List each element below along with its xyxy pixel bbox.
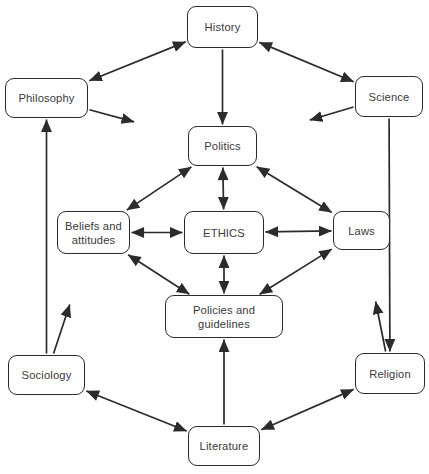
node-literature[interactable]: Literature: [188, 426, 260, 466]
node-religion-label: Religion: [369, 367, 411, 381]
node-philosophy-label: Philosophy: [18, 91, 74, 105]
edge-politics-laws: [257, 167, 332, 213]
edge-politics-ethics: [223, 168, 224, 210]
edge-religion-laws: [376, 302, 386, 352]
edge-sociology-beliefs: [54, 305, 70, 354]
node-laws[interactable]: Laws: [333, 211, 390, 250]
edge-beliefs-policies: [128, 255, 189, 294]
concept-map-diagram: History Philosophy Science Politics Beli…: [0, 0, 429, 474]
edge-history-philosophy: [89, 42, 185, 81]
node-religion[interactable]: Religion: [355, 353, 425, 394]
edge-history-science: [259, 42, 353, 81]
node-history-label: History: [205, 20, 241, 34]
edge-beliefs-politics: [127, 167, 192, 210]
node-beliefs-and-attitudes-label: Beliefs and attitudes: [65, 219, 122, 247]
node-sociology[interactable]: Sociology: [8, 355, 85, 395]
edge-science-center: [310, 107, 354, 120]
node-ethics[interactable]: ETHICS: [184, 211, 264, 254]
edge-policies-laws: [260, 249, 332, 294]
node-beliefs-and-attitudes[interactable]: Beliefs and attitudes: [57, 211, 130, 254]
node-science[interactable]: Science: [355, 76, 423, 117]
node-policies-and-guidelines-label: Policies and guidelines: [193, 303, 255, 331]
node-politics-label: Politics: [204, 139, 241, 153]
edge-literature-religion: [261, 389, 353, 429]
node-policies-and-guidelines[interactable]: Policies and guidelines: [165, 295, 283, 338]
node-politics[interactable]: Politics: [188, 126, 257, 166]
node-ethics-label: ETHICS: [203, 226, 245, 240]
node-literature-label: Literature: [200, 439, 249, 453]
node-science-label: Science: [369, 90, 410, 104]
node-laws-label: Laws: [348, 224, 375, 238]
node-sociology-label: Sociology: [22, 368, 72, 382]
edge-ethics-laws: [266, 231, 332, 232]
edge-sociology-literature: [86, 391, 186, 431]
edge-philosophy-center: [89, 110, 134, 122]
node-philosophy[interactable]: Philosophy: [5, 78, 88, 118]
node-history[interactable]: History: [187, 6, 258, 48]
